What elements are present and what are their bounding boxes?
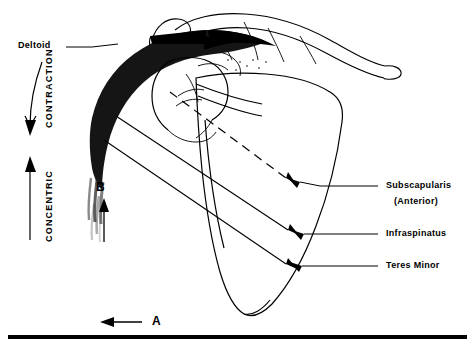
anatomy-figure-shoulder: Deltoid CONTRACTION CONCENTRIC B A Subsc…: [0, 0, 475, 355]
deltoid-muscle: [89, 30, 276, 242]
stipple-marks: [227, 59, 267, 71]
arrow-a-arrowhead: [100, 317, 114, 327]
label-contraction: CONTRACTION: [44, 48, 54, 128]
label-concentric: CONCENTRIC: [44, 170, 54, 242]
label-subscapularis: Subscapularis: [386, 180, 451, 190]
deltoid-leader-line: [66, 44, 118, 47]
contraction-arrowhead: [25, 120, 36, 136]
ground-baseline: [8, 335, 467, 339]
scapula-outline: [152, 58, 343, 316]
concentric-arrowhead: [25, 156, 36, 172]
muscle-force-lines: [104, 92, 299, 269]
label-infraspinatus: Infraspinatus: [386, 228, 446, 238]
label-subscapularis-sub: (Anterior): [394, 196, 438, 206]
shoulder-anatomy-illustration: [0, 0, 475, 355]
glenoid-detail: [168, 74, 216, 142]
label-teres-minor: Teres Minor: [386, 260, 440, 270]
label-point-a: A: [152, 314, 161, 328]
label-point-b: B: [96, 180, 105, 194]
leader-lines: [288, 178, 378, 272]
